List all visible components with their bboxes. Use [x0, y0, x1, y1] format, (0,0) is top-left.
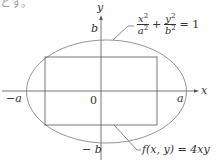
tick-label-b: b: [91, 23, 98, 34]
y-axis-arrow-icon: [99, 15, 103, 20]
tick-label-a: a: [177, 93, 184, 104]
x-axis-label: x: [201, 85, 207, 96]
equals-one: = 1: [179, 19, 199, 30]
ellipse: [27, 40, 187, 143]
x-axis-arrow-icon: [194, 89, 199, 93]
exponent: 2: [171, 12, 175, 20]
origin-label: 0: [90, 95, 97, 106]
exponent: 2: [144, 24, 148, 32]
y-axis-label: y: [97, 2, 103, 13]
fraction-x-over-a: x2 a2: [137, 13, 149, 36]
plus-sign: +: [152, 19, 161, 30]
rectangle-function-label: f(x, y) = 4xy: [142, 144, 210, 155]
exponent: 2: [171, 24, 175, 32]
rectangle-leader-line: [114, 125, 141, 150]
ellipse-equation: x2 a2 + y2 b2 = 1: [137, 13, 199, 36]
exponent: 2: [144, 12, 148, 20]
ellipse-leader-line: [113, 26, 134, 40]
tick-label-neg-b: − b: [82, 144, 102, 155]
fraction-y-over-b: y2 b2: [164, 13, 176, 36]
tick-label-neg-a: −a: [6, 93, 22, 104]
